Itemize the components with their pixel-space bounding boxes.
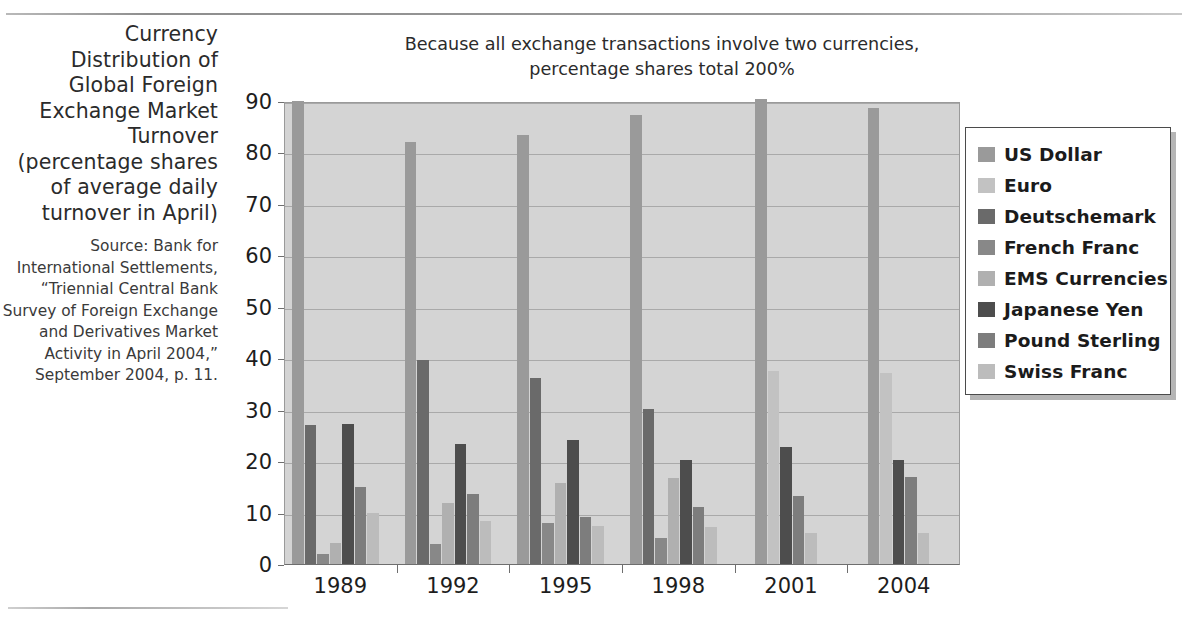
figure-caption-column: Currency Distribution of Global Foreign …: [0, 22, 228, 387]
gridline: [285, 309, 959, 310]
plot-area: [284, 102, 960, 565]
bar-us-dollar-1998: [630, 115, 642, 564]
bar-ems-currencies-1989: [330, 543, 342, 564]
legend-item-french-franc[interactable]: French Franc: [978, 232, 1170, 263]
chart-container: Because all exchange transactions involv…: [232, 24, 1182, 614]
figure-source-note: Source: Bank for International Settlemen…: [0, 236, 228, 387]
legend-item-deutschemark[interactable]: Deutschemark: [978, 201, 1170, 232]
bar-deutschemark-1995: [530, 378, 542, 564]
bar-pound-sterling-1998: [693, 507, 705, 564]
y-axis-tick-mark: [278, 359, 284, 360]
page-top-rule: [6, 13, 1182, 15]
gridline: [285, 103, 959, 104]
legend-item-japanese-yen[interactable]: Japanese Yen: [978, 294, 1170, 325]
y-axis-tick-label: 0: [259, 555, 272, 576]
figure-title: Currency Distribution of Global Foreign …: [0, 22, 228, 226]
bar-us-dollar-1989: [292, 101, 304, 564]
bar-french-franc-1989: [317, 554, 329, 564]
bar-swiss-franc-1992: [480, 521, 492, 564]
bar-euro-2001: [768, 371, 780, 564]
gridline: [285, 257, 959, 258]
x-axis-tick-label: 2001: [764, 576, 817, 597]
y-axis-tick-mark: [278, 514, 284, 515]
legend-item-swiss-franc[interactable]: Swiss Franc: [978, 356, 1170, 387]
bar-japanese-yen-2001: [780, 447, 792, 564]
bar-swiss-franc-2001: [805, 533, 817, 564]
bar-ems-currencies-1995: [555, 483, 567, 564]
bar-japanese-yen-1992: [455, 444, 467, 564]
x-axis-tick-mark: [735, 565, 736, 573]
gridline: [285, 515, 959, 516]
bar-french-franc-1995: [542, 523, 554, 564]
x-axis-tick-label: 2004: [877, 576, 930, 597]
bar-us-dollar-1995: [517, 135, 529, 564]
y-axis-tick-mark: [278, 308, 284, 309]
y-axis-tick-mark: [278, 411, 284, 412]
legend-item-label: Euro: [1004, 175, 1052, 196]
bar-ems-currencies-1992: [442, 503, 454, 564]
bar-japanese-yen-1989: [342, 424, 354, 564]
legend-item-label: Pound Sterling: [1004, 330, 1161, 351]
y-axis-tick-mark: [278, 205, 284, 206]
x-axis-tick-mark: [509, 565, 510, 573]
bar-pound-sterling-1992: [467, 494, 479, 564]
gridline: [285, 360, 959, 361]
x-axis-tick-mark: [622, 565, 623, 573]
bar-deutschemark-1998: [643, 409, 655, 564]
bar-ems-currencies-1998: [668, 478, 680, 564]
y-axis-tick-label: 60: [245, 246, 272, 267]
chart-title: Because all exchange transactions involv…: [352, 32, 972, 82]
bar-swiss-franc-2004: [918, 533, 930, 564]
bar-japanese-yen-1998: [680, 460, 692, 564]
y-axis-tick-label: 40: [245, 349, 272, 370]
legend-item-label: Swiss Franc: [1004, 361, 1128, 382]
legend-item-label: Japanese Yen: [1004, 299, 1143, 320]
bar-swiss-franc-1998: [705, 527, 717, 564]
legend-swatch-icon: [978, 333, 995, 348]
legend-item-euro[interactable]: Euro: [978, 170, 1170, 201]
bar-pound-sterling-1995: [580, 517, 592, 564]
gridline: [285, 463, 959, 464]
y-axis-tick-label: 30: [245, 400, 272, 421]
bar-euro-2004: [880, 373, 892, 564]
y-axis-tick-label: 90: [245, 92, 272, 113]
y-axis-tick-label: 70: [245, 194, 272, 215]
y-axis: 0102030405060708090: [232, 102, 278, 565]
bar-swiss-franc-1995: [592, 526, 604, 564]
y-axis-tick-mark: [278, 153, 284, 154]
legend-swatch-icon: [978, 240, 995, 255]
x-axis-tick-mark: [397, 565, 398, 573]
y-axis-tick-label: 80: [245, 143, 272, 164]
legend-item-us-dollar[interactable]: US Dollar: [978, 139, 1170, 170]
bar-us-dollar-1992: [405, 142, 417, 564]
bar-pound-sterling-2001: [793, 496, 805, 564]
bar-pound-sterling-1989: [355, 487, 367, 564]
bar-us-dollar-2004: [868, 108, 880, 564]
y-axis-tick-mark: [278, 256, 284, 257]
bar-deutschemark-1989: [305, 425, 317, 564]
bar-japanese-yen-1995: [567, 440, 579, 564]
gridline: [285, 206, 959, 207]
legend-swatch-icon: [978, 178, 995, 193]
legend-swatch-icon: [978, 302, 995, 317]
gridline: [285, 412, 959, 413]
x-axis-tick-mark: [847, 565, 848, 573]
y-axis-tick-mark: [278, 102, 284, 103]
bar-deutschemark-1992: [417, 360, 429, 564]
legend-swatch-icon: [978, 364, 995, 379]
x-axis-tick-label: 1998: [652, 576, 705, 597]
legend-item-ems-currencies[interactable]: EMS Currencies: [978, 263, 1170, 294]
legend-swatch-icon: [978, 209, 995, 224]
legend-item-label: US Dollar: [1004, 144, 1102, 165]
legend-item-label: Deutschemark: [1004, 206, 1156, 227]
y-axis-tick-label: 50: [245, 297, 272, 318]
bar-french-franc-1992: [430, 544, 442, 564]
legend-item-label: EMS Currencies: [1004, 268, 1168, 289]
bar-french-franc-1998: [655, 538, 667, 564]
legend-swatch-icon: [978, 147, 995, 162]
x-axis-tick-label: 1995: [539, 576, 592, 597]
x-axis-tick-label: 1992: [426, 576, 479, 597]
y-axis-tick-label: 10: [245, 503, 272, 524]
bar-us-dollar-2001: [755, 99, 767, 564]
legend-item-pound-sterling[interactable]: Pound Sterling: [978, 325, 1170, 356]
